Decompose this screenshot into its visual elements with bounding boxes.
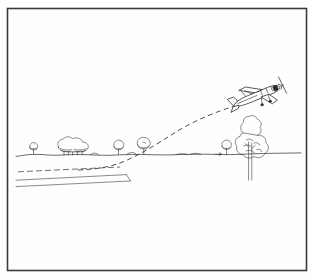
large-tree (235, 116, 268, 180)
treeline-group (30, 137, 232, 155)
tree-small-1 (30, 143, 38, 155)
runway (16, 175, 131, 187)
illustration-canvas: Airplane takeoff climb-out over treeline… (0, 0, 315, 277)
airplane-wheel-left (260, 103, 264, 106)
horizon-arrow-marks (215, 153, 222, 156)
tree-cluster-2 (58, 137, 88, 155)
scene-drawing (0, 0, 315, 277)
tree-small-3 (114, 140, 124, 154)
airplane-gear-strut-left (260, 98, 263, 104)
ground-bump-1 (91, 153, 99, 155)
tree-small-5 (222, 140, 232, 154)
border-frame (8, 9, 307, 271)
flight-path (78, 104, 243, 170)
horizon-line (16, 153, 301, 157)
airplane (224, 74, 288, 120)
runway-centerline (18, 167, 120, 172)
